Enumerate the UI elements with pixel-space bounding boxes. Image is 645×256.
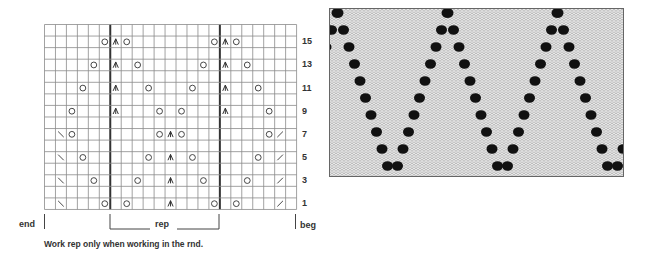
pattern-note: Work rep only when working in the rnd. xyxy=(44,239,203,249)
repeat-bracket xyxy=(0,0,330,256)
knitting-chart: 15131197531 end rep beg Work rep only wh… xyxy=(0,0,330,256)
lace-texture xyxy=(330,9,624,177)
rep-bracket-right xyxy=(177,214,219,229)
lace-swatch-photo xyxy=(329,8,624,177)
rep-bracket-left xyxy=(110,214,150,229)
